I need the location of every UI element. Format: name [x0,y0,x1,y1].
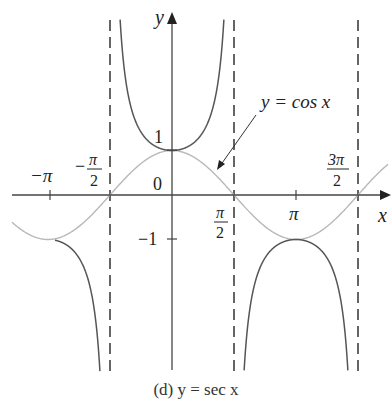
y-axis-arrow-icon [167,12,177,24]
sec-curve-branch [244,240,348,371]
annotation-arrowhead-icon [217,160,225,170]
y-tick-label-1: 1 [154,127,163,147]
figure-caption: (d) y = sec x [0,380,392,400]
origin-label: 0 [153,174,162,194]
x-tick-label-pi: π [289,203,299,224]
x-tick-label-neg-half-pi-sign: − [75,156,85,176]
x-tick-label-half-pi-num: π [216,204,225,221]
y-axis-label: y [153,6,164,29]
x-tick-label-three-half-pi-den: 2 [333,172,341,189]
x-tick-label-neg-half-pi-den: 2 [90,172,98,189]
x-axis-label: x [377,204,387,226]
x-tick-label-three-half-pi-num: 3π [327,151,345,168]
x-tick-label-half-pi-den: 2 [216,224,224,241]
sec-curve-branch [55,240,100,371]
y-tick-label-minus-1: −1 [138,229,157,249]
annotation-arrow [220,115,256,166]
x-tick-label-neg-half-pi-num: π [89,151,98,168]
x-tick-label-neg-pi: −π [30,165,53,186]
x-axis-arrow-icon [380,190,391,200]
cos-curve-label: y = cos x [259,91,331,112]
